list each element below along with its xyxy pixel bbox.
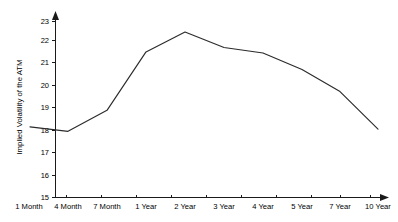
x-tick-label-5-year: 5 Year	[291, 202, 313, 211]
x-tick-label-7-month: 7 Month	[93, 202, 120, 211]
x-tick-label-3-year: 3 Year	[213, 202, 235, 211]
x-tick-label-1-year: 1 Year	[135, 202, 157, 211]
x-tick-label-1-month: 1 Month	[15, 202, 42, 211]
x-axis-tick-labels: 1 Month 4 Month 7 Month 1 Year 2 Year 3 …	[15, 202, 391, 211]
x-tick-label-2-year: 2 Year	[174, 202, 196, 211]
y-axis-group	[52, 11, 59, 198]
x-tick-label-4-year: 4 Year	[252, 202, 274, 211]
y-axis-arrow-icon	[52, 11, 59, 20]
volatility-data-line	[30, 32, 378, 131]
chart-canvas: 15 16 17 18 19 20 21 22 23 1 Month 4 Mon…	[0, 0, 398, 222]
y-tick-label: 22	[41, 36, 49, 45]
x-tick-label-10-year: 10 Year	[365, 202, 391, 211]
y-tick-label: 17	[41, 148, 49, 157]
y-tick-label: 23	[41, 17, 49, 26]
implied-volatility-term-structure-chart: 15 16 17 18 19 20 21 22 23 1 Month 4 Mon…	[0, 0, 398, 222]
y-axis-ticks	[52, 21, 56, 198]
y-tick-label: 16	[41, 171, 49, 180]
y-tick-label: 19	[41, 103, 49, 112]
x-axis-group	[56, 194, 390, 201]
y-tick-label: 21	[41, 58, 49, 67]
x-axis-arrow-icon	[380, 194, 389, 201]
y-tick-label: 15	[41, 193, 49, 202]
y-axis-title: Implied Volatility of the ATM	[15, 59, 24, 154]
y-tick-label: 20	[41, 81, 49, 90]
x-tick-label-4-month: 4 Month	[54, 202, 81, 211]
y-tick-label: 18	[41, 126, 49, 135]
y-axis-tick-labels: 15 16 17 18 19 20 21 22 23	[41, 17, 49, 203]
x-tick-label-7-year: 7 Year	[329, 202, 351, 211]
